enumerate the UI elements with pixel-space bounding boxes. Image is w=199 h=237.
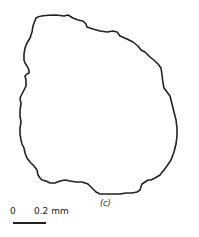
scale-zero-label: 0 bbox=[10, 206, 16, 216]
panel-label: (c) bbox=[100, 199, 111, 208]
scale-bar bbox=[13, 222, 46, 224]
grain-outline-figure: (c) 0 0.2 mm bbox=[0, 0, 199, 237]
grain-boundary-path bbox=[20, 15, 177, 194]
scale-value-label: 0.2 mm bbox=[34, 206, 69, 216]
